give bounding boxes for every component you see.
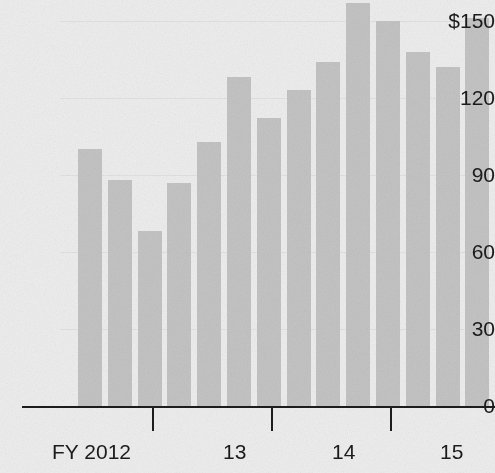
x-axis-group-label: FY 2012 [52, 441, 131, 462]
bar [138, 231, 162, 406]
gridline [60, 21, 495, 22]
y-axis-tick-label: 90 [439, 164, 495, 185]
bar [346, 3, 370, 406]
x-axis-line [22, 406, 495, 408]
bar [436, 67, 460, 406]
bar [257, 118, 281, 406]
x-axis-group-label: 15 [440, 441, 463, 462]
bar [227, 77, 251, 406]
bar [197, 142, 221, 406]
bar [465, 18, 489, 406]
x-axis-group-label: 14 [332, 441, 355, 462]
y-axis-tick-label: 60 [439, 241, 495, 262]
plot-area: $1501209060300FY 2012131415 [0, 0, 495, 473]
x-axis-tick-mark [390, 408, 392, 431]
bar [78, 149, 102, 406]
x-axis-group-label: 13 [223, 441, 246, 462]
bar [376, 21, 400, 406]
bar [287, 90, 311, 406]
bar [406, 52, 430, 406]
bar-chart: $1501209060300FY 2012131415 [0, 0, 495, 473]
y-axis-tick-label: 120 [439, 87, 495, 108]
bar [108, 180, 132, 406]
x-axis-tick-mark [152, 408, 154, 431]
x-axis-tick-mark [271, 408, 273, 431]
bar [167, 183, 191, 406]
bar [316, 62, 340, 406]
y-axis-tick-label: $150 [439, 10, 495, 31]
y-axis-tick-label: 30 [439, 318, 495, 339]
